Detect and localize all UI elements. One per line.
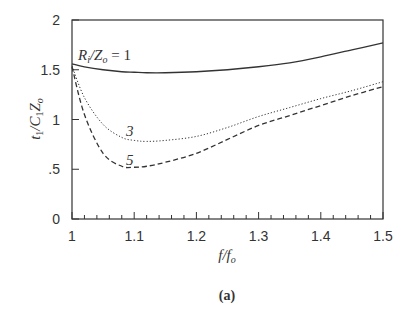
x-tick-label: 1.3 <box>249 228 269 244</box>
annotation-r1: Ri/Zo = 1 <box>77 47 131 65</box>
y-tick-label: 2 <box>52 12 60 28</box>
annotation-r5: 5 <box>126 152 134 168</box>
series-line-3 <box>72 67 383 168</box>
y-tick-label: .5 <box>48 161 60 177</box>
x-tick-label: 1 <box>68 228 76 244</box>
x-tick-label: 1.1 <box>124 228 144 244</box>
x-tick-label: 1.2 <box>187 228 207 244</box>
x-tick-label: 1.5 <box>373 228 393 244</box>
y-tick-label: 1.5 <box>41 62 61 78</box>
annotation-r3: 3 <box>125 123 134 139</box>
series-line-2 <box>72 66 383 142</box>
x-tick-label: 1.4 <box>311 228 331 244</box>
y-tick-label: 1 <box>52 112 60 128</box>
y-axis-label: t1/C1Zo <box>27 98 45 140</box>
x-axis-label: f/fo <box>218 247 236 265</box>
y-tick-label: 0 <box>52 211 60 227</box>
figure-caption: (a) <box>219 288 236 304</box>
line-chart: 11.11.21.31.41.50.511.52 Ri/Zo = 1 3 5 t… <box>0 0 416 321</box>
